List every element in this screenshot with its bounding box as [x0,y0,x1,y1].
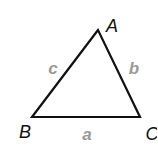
side-label-c: c [48,59,58,78]
side-label-a: a [82,125,91,144]
triangle-diagram: A B C a b c [0,0,157,147]
vertex-label-a: A [105,16,118,36]
side-label-b: b [129,59,139,78]
vertex-label-c: C [146,124,158,144]
vertex-label-b: B [19,122,31,142]
